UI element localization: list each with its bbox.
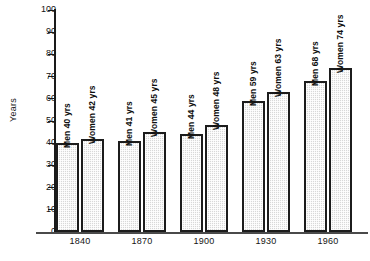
plot-area: Men 40 yrsWomen 42 yrsMen 41 yrsWomen 45… [0,0,370,261]
bar-value-label-1870-men: Men 41 yrs [124,101,134,146]
bar-value-label-1960-women: Women 74 yrs [335,14,345,73]
bar-value-label-1840-women: Women 42 yrs [87,85,97,144]
x-axis-line [36,232,368,234]
x-axis-tick-label-1900: 1900 [184,236,224,246]
bar-1960-men [304,81,327,232]
x-axis-tick-label-1840: 1840 [60,236,100,246]
bar-1840-men [56,143,79,232]
bar-chart: Years 1009080706050403020100 Men 40 yrsW… [0,0,370,261]
bar-1870-men [118,141,141,232]
bar-value-label-1870-women: Women 45 yrs [149,78,159,137]
bar-1930-women [267,92,290,232]
bar-1900-women [205,125,228,232]
x-axis-tick-label-1870: 1870 [122,236,162,246]
bar-value-label-1960-men: Men 68 yrs [310,41,320,86]
bar-value-label-1840-men: Men 40 yrs [62,103,72,148]
x-axis-labels: 18401870190019301960 [0,236,370,252]
bar-value-label-1900-women: Women 48 yrs [211,72,221,131]
x-axis-tick-label-1930: 1930 [246,236,286,246]
bar-1960-women [329,68,352,232]
bar-value-label-1900-men: Men 44 yrs [186,94,196,139]
bar-1870-women [143,132,166,232]
x-axis-tick-label-1960: 1960 [308,236,348,246]
bar-value-label-1930-women: Women 63 yrs [273,38,283,97]
bar-value-label-1930-men: Men 59 yrs [248,61,258,106]
bar-1930-men [242,101,265,232]
bar-1840-women [81,139,104,232]
bar-1900-men [180,134,203,232]
